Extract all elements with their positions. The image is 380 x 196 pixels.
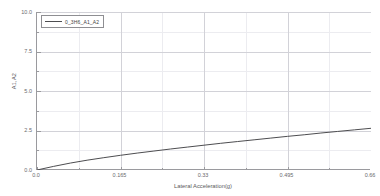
x-tick-label: 0.33 bbox=[183, 172, 223, 178]
x-tick-label: 0.165 bbox=[100, 172, 140, 178]
x-tick-label: 0.0 bbox=[16, 172, 56, 178]
chart-container: A1,A2 0.02.55.07.510.0 0.00.1650.330.495… bbox=[0, 0, 380, 196]
legend-line-swatch-icon bbox=[45, 21, 62, 22]
chart-legend[interactable]: 0_3H6_A1_A2 bbox=[41, 15, 104, 28]
y-tick-label: 2.5 bbox=[6, 127, 32, 133]
y-tick-label: 10.0 bbox=[6, 9, 32, 15]
y-tick-label: 5.0 bbox=[6, 88, 32, 94]
x-tick-label: 0.495 bbox=[267, 172, 307, 178]
plot-svg bbox=[37, 12, 371, 170]
major-gridlines bbox=[37, 12, 371, 170]
y-tick-label: 7.5 bbox=[6, 48, 32, 54]
x-axis-title: Lateral Acceleration(g) bbox=[36, 183, 370, 189]
plot-area bbox=[36, 12, 370, 170]
x-tick-label: 0.66 bbox=[350, 172, 380, 178]
legend-entry-label: 0_3H6_A1_A2 bbox=[65, 19, 99, 25]
